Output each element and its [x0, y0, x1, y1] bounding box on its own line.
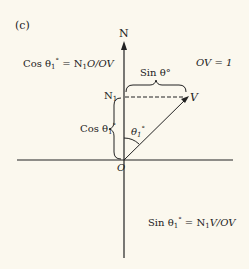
north-arrowhead-icon	[121, 41, 127, 50]
cos-formula: Cos θ1° = N1O/OV	[23, 57, 116, 71]
cos-brace-label: Cos θ1°	[80, 122, 116, 136]
angle-label: θ1°	[131, 125, 145, 139]
sin-formula: Sin θ1° = N1V/OV	[148, 216, 237, 230]
sin-brace-label: Sin θ°	[140, 67, 171, 78]
vector-diagram: (c) N O V N1 Sin θ° Cos θ1° θ1° OV = 1 C…	[0, 0, 249, 269]
panel-label: (c)	[15, 19, 30, 32]
ov-note: OV = 1	[196, 57, 232, 68]
sin-brace	[126, 80, 186, 92]
north-label: N	[119, 27, 129, 40]
origin-label: O	[117, 162, 125, 173]
v-label: V	[190, 91, 199, 104]
